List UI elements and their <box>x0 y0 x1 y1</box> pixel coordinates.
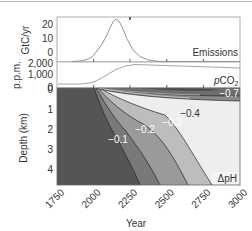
contour-label-0.1: −0.1 <box>108 134 128 145</box>
x-axis: 1750 2000 2250 2500 2750 3000 Year <box>43 186 250 229</box>
contour-label-0.4: −0.4 <box>180 108 200 119</box>
ph-contour-panel: −0.1 −0.2 −0.3 −0.4 −0.7 ΔpH 0 1 2 3 4 D… <box>18 84 240 185</box>
depth-tick-4: 4 <box>47 164 53 175</box>
em-ylabel: GtC/yr <box>20 25 31 55</box>
em-tick-0: 0 <box>47 47 53 58</box>
pco2-tick-1000: 1,000 <box>28 69 53 80</box>
em-tick-20: 20 <box>42 19 54 30</box>
x-tick-2000: 2000 <box>79 186 103 210</box>
contour-label-0.2: −0.2 <box>135 124 155 135</box>
depth-tick-1: 1 <box>47 104 53 115</box>
chart-figure: 20 10 0 GtC/yr Emissions 2,000 1,000 0 p… <box>0 0 252 231</box>
dph-annotation: ΔpH <box>218 173 237 184</box>
x-tick-2750: 2750 <box>189 186 213 210</box>
depth-tick-2: 2 <box>47 124 53 135</box>
depth-ylabel: Depth (km) <box>18 113 29 162</box>
emissions-panel: 20 10 0 GtC/yr Emissions <box>20 17 240 62</box>
depth-tick-3: 3 <box>47 144 53 155</box>
x-tick-3000: 3000 <box>226 186 250 210</box>
em-tick-10: 10 <box>42 33 54 44</box>
x-tick-1750: 1750 <box>43 186 67 210</box>
pco2-ylabel: p.p.m. <box>11 61 22 89</box>
pco2-tick-2000: 2,000 <box>28 58 53 69</box>
contour-label-0.7: −0.7 <box>219 88 239 99</box>
x-tick-2500: 2500 <box>153 186 177 210</box>
depth-tick-0: 0 <box>47 84 53 95</box>
emissions-annotation: Emissions <box>192 47 238 58</box>
x-tick-2250: 2250 <box>116 186 140 210</box>
x-axis-label: Year <box>126 218 147 229</box>
